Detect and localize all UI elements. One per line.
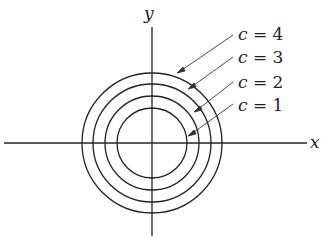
label-c4: c = 4 bbox=[238, 24, 283, 44]
arrow-c2 bbox=[196, 82, 233, 111]
arrow-c3 bbox=[190, 57, 233, 88]
arrow-c4 bbox=[179, 35, 233, 72]
label-c1: c = 1 bbox=[238, 95, 283, 115]
x-axis-label: x bbox=[310, 132, 320, 152]
level-curves-diagram: y x c = 4 c = 3 c = 2 c = 1 bbox=[0, 0, 321, 241]
label-c2: c = 2 bbox=[238, 72, 283, 92]
y-axis-label: y bbox=[144, 3, 154, 23]
arrow-c1 bbox=[190, 104, 233, 135]
label-c3: c = 3 bbox=[238, 47, 283, 67]
